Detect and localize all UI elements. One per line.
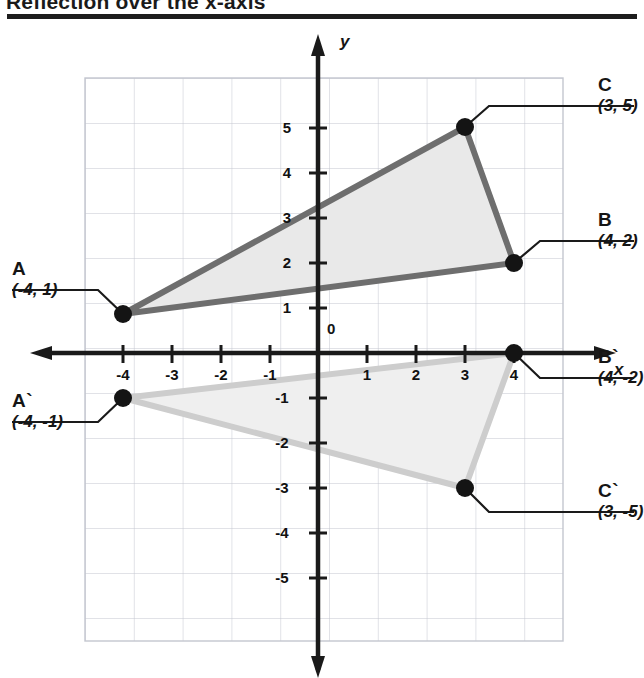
y-tick-label-2: 2	[273, 254, 301, 271]
label-A-prime-key: A`	[12, 390, 63, 412]
label-C-key: C	[598, 74, 638, 96]
vertex-A	[114, 305, 132, 323]
label-A: A (-4, 1)	[12, 258, 57, 300]
y-axis-label: y	[340, 32, 349, 52]
label-C-coord: (3, 5)	[598, 96, 638, 116]
vertex-Cp	[456, 479, 474, 497]
x-tick-label--4: -4	[107, 366, 139, 383]
vertex-B	[505, 254, 523, 272]
label-C-prime: C` (3, -5)	[598, 480, 643, 522]
y-tick-label-4: 4	[273, 164, 301, 181]
x-tick-label-3: 3	[449, 366, 481, 383]
label-C-prime-key: C`	[598, 480, 643, 502]
y-tick-label-3: 3	[273, 209, 301, 226]
vertex-Ap	[114, 389, 132, 407]
label-A-prime-coord: (-4, -1)	[12, 412, 63, 432]
label-A-prime: A` (-4, -1)	[12, 390, 63, 432]
vertex-Bp	[505, 344, 523, 362]
coordinate-plane-figure: y x 0 -4 -3 -2 -1 1 2 3 4 5 4 3 2 1 -1 -…	[0, 22, 644, 678]
x-tick-label--2: -2	[205, 366, 237, 383]
graph-canvas	[0, 22, 644, 678]
x-tick-label--3: -3	[156, 366, 188, 383]
title-divider	[7, 14, 637, 19]
y-tick-label--4: -4	[263, 524, 301, 541]
page-title: Reflection over the x-axis	[6, 0, 266, 14]
x-tick-label-1: 1	[351, 366, 383, 383]
label-B-prime-key: B`	[598, 346, 643, 368]
label-B-prime-coord: (4, -2)	[598, 368, 643, 388]
x-tick-label-2: 2	[400, 366, 432, 383]
origin-label: 0	[327, 320, 335, 337]
label-A-coord: (-4, 1)	[12, 280, 57, 300]
y-tick-label--3: -3	[263, 479, 301, 496]
label-B-coord: (4, 2)	[598, 231, 638, 251]
y-tick-label--1: -1	[263, 389, 301, 406]
label-B: B (4, 2)	[598, 209, 638, 251]
x-tick-label--1: -1	[254, 366, 286, 383]
label-B-prime: B` (4, -2)	[598, 346, 643, 388]
x-tick-label-4: 4	[498, 366, 530, 383]
label-B-key: B	[598, 209, 638, 231]
label-C-prime-coord: (3, -5)	[598, 502, 643, 522]
label-C: C (3, 5)	[598, 74, 638, 116]
y-tick-label-5: 5	[273, 119, 301, 136]
label-A-key: A	[12, 258, 57, 280]
y-tick-label-1: 1	[273, 299, 301, 316]
y-tick-label--2: -2	[263, 434, 301, 451]
vertex-C	[456, 118, 474, 136]
y-tick-label--5: -5	[263, 569, 301, 586]
